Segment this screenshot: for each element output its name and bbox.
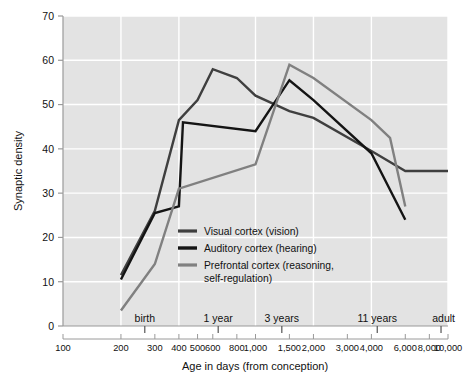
x-tick-label: 3,000 — [336, 343, 359, 353]
x-tick-label: 10,000 — [434, 343, 462, 353]
y-tick-label: 20 — [42, 231, 54, 243]
x-tick-label: 100 — [55, 343, 71, 353]
y-tick-label: 10 — [42, 276, 54, 288]
x-tick-label: 600 — [205, 343, 221, 353]
synaptic-density-line-chart: 010203040506070 1002003004005006008001,0… — [0, 0, 463, 382]
x-tick-label: 6,000 — [394, 343, 417, 353]
legend-label-auditory-cortex: Auditory cortex (hearing) — [204, 243, 317, 254]
y-axis-title: Synaptic density — [12, 130, 24, 211]
x-tick-label: 200 — [113, 343, 129, 353]
y-tick-label: 50 — [42, 98, 54, 110]
x-axis-title: Age in days (from conception) — [182, 360, 328, 372]
chart-figure: 010203040506070 1002003004005006008001,0… — [0, 0, 463, 382]
stage-marker-label: 1 year — [204, 312, 234, 324]
x-tick-label: 300 — [147, 343, 163, 353]
stage-marker-label: adult — [432, 312, 455, 324]
x-tick-label: 4,000 — [360, 343, 383, 353]
y-tick-label: 30 — [42, 187, 54, 199]
legend-label-prefrontal-cortex-line2: self-regulation) — [204, 273, 272, 284]
x-tick-label: 1,000 — [244, 343, 267, 353]
y-tick-label: 60 — [42, 54, 54, 66]
stage-marker-label: 11 years — [357, 312, 397, 324]
x-tick-label: 800 — [229, 343, 245, 353]
y-tick-label: 40 — [42, 143, 54, 155]
y-tick-label: 70 — [42, 10, 54, 22]
x-tick-label: 500 — [190, 343, 206, 353]
x-tick-label: 1,500 — [278, 343, 301, 353]
y-tick-label: 0 — [48, 320, 54, 332]
stage-marker-label: birth — [135, 312, 156, 324]
x-tick-label: 2,000 — [302, 343, 325, 353]
stage-marker-label: 3 years — [265, 312, 299, 324]
x-tick-label: 400 — [171, 343, 187, 353]
legend-label-prefrontal-cortex: Prefrontal cortex (reasoning, — [204, 260, 334, 271]
legend-label-visual-cortex: Visual cortex (vision) — [204, 226, 299, 237]
